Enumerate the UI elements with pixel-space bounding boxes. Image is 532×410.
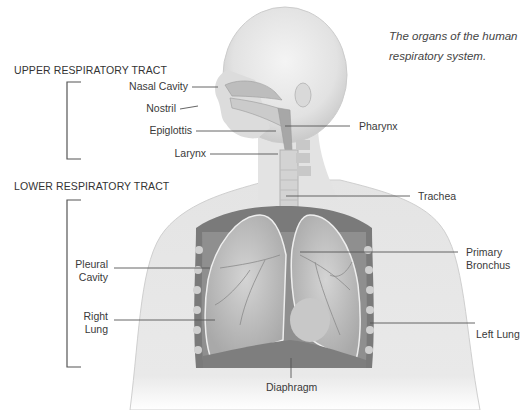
label-nostril: Nostril (120, 102, 176, 115)
label-nasal-cavity: Nasal Cavity (100, 80, 188, 93)
label-primary-bronchus: Primary Bronchus (466, 246, 510, 272)
label-epiglottis: Epiglottis (110, 124, 192, 137)
label-right-lung: Right Lung (50, 310, 108, 336)
lower-tract-heading: LOWER RESPIRATORY TRACT (14, 180, 169, 192)
label-diaphragm: Diaphragm (266, 381, 317, 394)
label-trachea: Trachea (418, 190, 456, 203)
label-left-lung: Left Lung (476, 328, 520, 341)
upper-tract-heading: UPPER RESPIRATORY TRACT (14, 64, 167, 76)
caption: The organs of the human respiratory syst… (389, 26, 529, 66)
label-larynx: Larynx (140, 147, 206, 160)
label-pharynx: Pharynx (359, 120, 398, 133)
label-pleural-cavity: Pleural Cavity (50, 258, 108, 284)
